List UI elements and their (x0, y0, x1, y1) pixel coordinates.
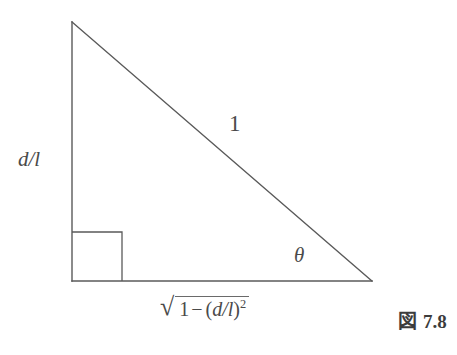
radicand-exponent: 2 (240, 297, 246, 311)
hypotenuse-label: 1 (229, 112, 241, 135)
radicand-d: d (212, 298, 222, 320)
radicand-group: 1−(d/l)2 (175, 296, 249, 319)
hypotenuse-line (72, 22, 372, 281)
right-angle-marker-icon (72, 232, 122, 281)
radicand-minus: − (191, 298, 202, 320)
figure-caption-symbol: 図 (398, 311, 417, 332)
vertical-leg-label: d/l (18, 149, 40, 170)
radicand-one: 1 (179, 298, 189, 320)
radical-sign-icon: √ (160, 295, 174, 320)
figure-caption-number: 7.8 (423, 311, 447, 332)
base-leg-label: √ 1−(d/l)2 (160, 294, 249, 319)
figure-container: d/l 1 θ √ 1−(d/l)2 図7.8 (0, 0, 457, 355)
angle-theta-label: θ (294, 245, 304, 266)
figure-caption: 図7.8 (398, 306, 447, 333)
